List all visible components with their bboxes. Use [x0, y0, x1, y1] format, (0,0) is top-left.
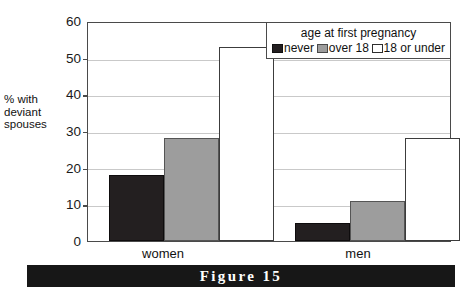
bar-men-18-or-under[interactable] [405, 138, 460, 241]
figure-caption-bar: Figure 15 [27, 265, 455, 287]
y-axis-tick-labels: 60 50 40 30 20 10 0 [47, 0, 81, 287]
legend-entry-never[interactable]: never [272, 42, 314, 55]
legend-entry-over-18[interactable]: over 18 [317, 42, 369, 55]
y-tick-label-20: 20 [51, 162, 81, 176]
black-square-icon [272, 44, 283, 53]
legend-label-18-or-under: 18 or under [384, 42, 445, 55]
bar-men-never[interactable] [295, 223, 350, 241]
figure-caption-text: Figure 15 [200, 269, 283, 284]
gray-square-icon [317, 44, 328, 53]
y-tick-label-50: 50 [51, 52, 81, 66]
y-tick-label-40: 40 [51, 89, 81, 103]
y-tick-label-30: 30 [51, 125, 81, 139]
bar-women-never[interactable] [109, 175, 164, 241]
bar-women-18-or-under[interactable] [219, 47, 274, 241]
legend-entries: never over 18 18 or under [271, 42, 446, 55]
x-axis-label-men: men [345, 246, 370, 261]
y-tick-label-10: 10 [51, 199, 81, 213]
legend-label-never: never [284, 42, 314, 55]
bar-women-over-18[interactable] [164, 138, 219, 241]
figure-container: % with deviant spouses 60 50 40 30 20 10… [0, 0, 474, 287]
legend-title: age at first pregnancy [271, 26, 446, 40]
legend-entry-18-or-under[interactable]: 18 or under [372, 42, 445, 55]
legend-label-over-18: over 18 [329, 42, 369, 55]
y-tick-label-0: 0 [51, 235, 81, 249]
legend: age at first pregnancy never over 18 18 … [266, 22, 451, 59]
y-tick-label-60: 60 [51, 15, 81, 29]
bar-men-over-18[interactable] [350, 201, 405, 241]
white-square-icon [372, 44, 383, 53]
x-axis-label-women: women [142, 246, 184, 261]
